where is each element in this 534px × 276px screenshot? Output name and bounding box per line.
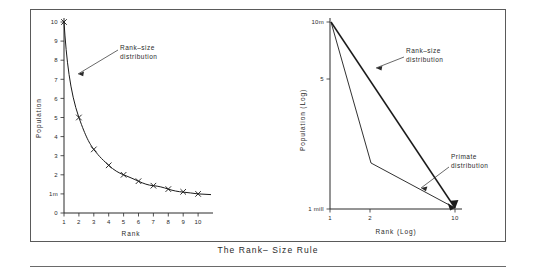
right-y-ticklabel-5: 5 bbox=[320, 76, 324, 82]
right-annotation2-line2: distribution bbox=[451, 162, 488, 169]
figure-caption: The Rank– Size Rule bbox=[30, 245, 506, 255]
right-axes bbox=[330, 18, 462, 209]
right-annotation2-leader bbox=[421, 167, 449, 188]
right-x-axis-title: Rank (Log) bbox=[375, 228, 416, 236]
right-annotation1-leader bbox=[376, 57, 404, 68]
right-x-ticklabels: 1 2 10 bbox=[328, 215, 459, 221]
right-annotation1-line2: distribution bbox=[406, 56, 443, 63]
right-annotation1-line1: Rank–size bbox=[406, 47, 441, 54]
figure-rank-size-rule: 0 1m 2 3 4 5 6 7 8 9 10 1 2 bbox=[0, 0, 534, 276]
right-x-ticks bbox=[330, 209, 455, 213]
caption-divider bbox=[30, 266, 506, 267]
right-y-ticklabel-1mill: 1 mill bbox=[308, 206, 324, 212]
right-y-axis-title: Population (Log) bbox=[299, 89, 307, 151]
right-y-ticklabel-10m: 10m bbox=[311, 19, 324, 25]
right-chart-panel: 10m 5 1 mill 1 2 10 Rank (Log) Populatio… bbox=[0, 0, 534, 276]
right-y-ticklabels: 10m 5 1 mill bbox=[308, 19, 324, 212]
right-annotation2-line1: Primate bbox=[451, 153, 477, 160]
right-x-ticklabel-1: 1 bbox=[328, 215, 332, 221]
right-x-ticklabel-10: 10 bbox=[451, 215, 459, 221]
right-x-ticklabel-2: 2 bbox=[368, 215, 372, 221]
right-y-ticks bbox=[327, 22, 331, 209]
